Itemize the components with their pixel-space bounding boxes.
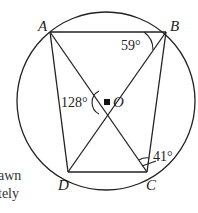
side-text-line2: tely xyxy=(0,185,19,202)
label-C: C xyxy=(146,177,157,193)
angle-label-C: 41° xyxy=(153,149,173,164)
angle-label-B: 59° xyxy=(121,38,141,53)
label-A: A xyxy=(37,18,48,34)
label-D: D xyxy=(57,177,69,193)
label-O: O xyxy=(113,94,124,110)
label-B: B xyxy=(170,18,179,34)
geometry-diagram: A B O D C 59° 128° 41° xyxy=(0,0,198,213)
side-text-line1: awn xyxy=(0,167,21,184)
center-point xyxy=(104,99,110,105)
angle-arc-B xyxy=(144,32,153,50)
angle-label-O: 128° xyxy=(61,95,88,110)
angle-arc-C xyxy=(139,158,149,160)
